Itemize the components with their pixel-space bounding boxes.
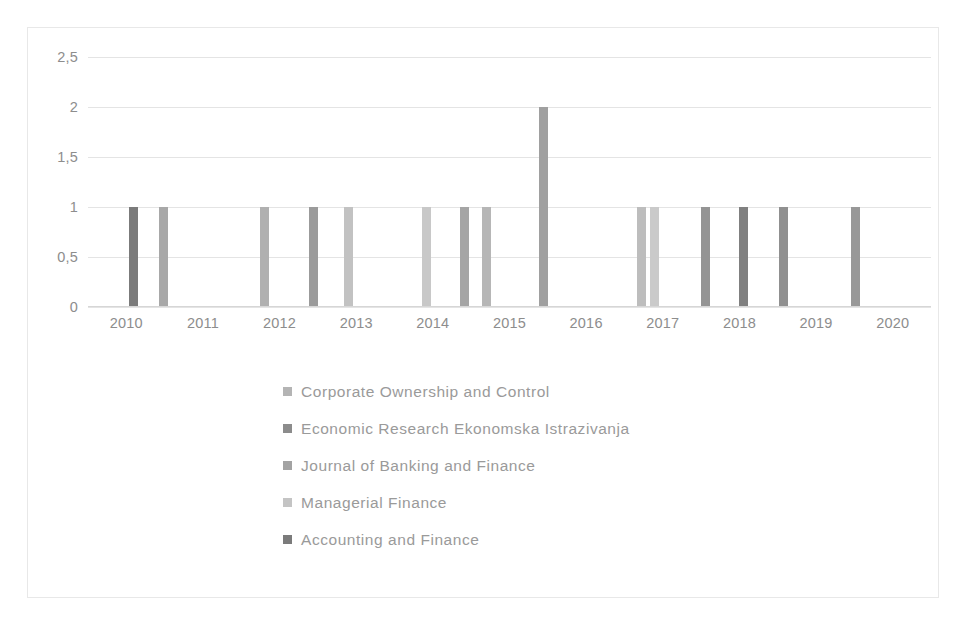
x-axis-tick-labels: 2010201120122013201420152016201720182019… [88,315,931,345]
gridline [88,207,931,208]
bar[interactable] [637,207,646,307]
legend-item[interactable]: Journal of Banking and Finance [28,447,938,484]
y-axis-tick-label: 1 [70,199,78,215]
legend-item-label: Corporate Ownership and Control [301,383,550,401]
gridline [88,107,931,108]
x-axis-tick-label: 2016 [570,315,603,331]
legend-item-label: Accounting and Finance [301,531,479,549]
bar[interactable] [779,207,788,307]
chart-legend: Corporate Ownership and ControlEconomic … [28,373,938,558]
x-axis-tick-label: 2013 [340,315,373,331]
legend-swatch-icon [283,424,292,433]
legend-item-label: Managerial Finance [301,494,447,512]
y-axis-tick-label: 0,5 [57,249,78,265]
legend-swatch-icon [283,498,292,507]
x-axis-tick-label: 2019 [800,315,833,331]
bar[interactable] [650,207,659,307]
bar[interactable] [129,207,138,307]
x-axis-tick-label: 2011 [187,315,219,331]
y-axis-tick-label: 0 [70,299,78,315]
x-axis-tick-label: 2017 [646,315,679,331]
x-axis-tick-label: 2018 [723,315,756,331]
legend-item[interactable]: Accounting and Finance [28,521,938,558]
chart-frame: 2,521,510,50 201020112012201320142015201… [27,27,939,598]
y-axis-tick-label: 2,5 [57,49,78,65]
legend-item[interactable]: Economic Research Ekonomska Istrazivanja [28,410,938,447]
bar[interactable] [422,207,431,307]
legend-item-label: Economic Research Ekonomska Istrazivanja [301,420,630,438]
x-axis-tick-label: 2015 [493,315,526,331]
x-axis-tick-label: 2014 [416,315,449,331]
legend-swatch-icon [283,461,292,470]
plot-area: 2,521,510,50 [88,57,931,307]
bar[interactable] [539,107,548,307]
bar[interactable] [309,207,318,307]
y-axis-tick-label: 2 [70,99,78,115]
gridline [88,257,931,258]
bar[interactable] [482,207,491,307]
x-axis-tick-label: 2012 [263,315,296,331]
bar[interactable] [739,207,748,307]
bar[interactable] [260,207,269,307]
legend-item-label: Journal of Banking and Finance [301,457,536,475]
x-axis-baseline [88,306,931,307]
bar[interactable] [460,207,469,307]
y-axis-tick-label: 1,5 [57,149,78,165]
legend-item[interactable]: Managerial Finance [28,484,938,521]
legend-item[interactable]: Corporate Ownership and Control [28,373,938,410]
x-axis-tick-label: 2020 [876,315,909,331]
x-axis-tick-label: 2010 [110,315,143,331]
bar[interactable] [344,207,353,307]
legend-swatch-icon [283,535,292,544]
bar[interactable] [701,207,710,307]
gridline [88,307,931,308]
legend-swatch-icon [283,387,292,396]
bar[interactable] [851,207,860,307]
bar[interactable] [159,207,168,307]
gridline [88,57,931,58]
gridline [88,157,931,158]
